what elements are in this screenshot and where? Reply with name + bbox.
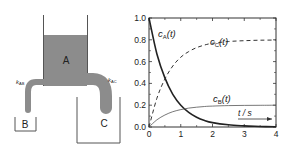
pipe-ac bbox=[87, 79, 106, 108]
x-axis-label: t / s bbox=[238, 108, 252, 118]
y-tick-label: 0.0 bbox=[134, 122, 146, 132]
concentration-chart: 0.00.20.40.60.81.0 01234 cA(t) cC(t) cB(… bbox=[134, 13, 278, 139]
rate-ab-label: kAB bbox=[16, 79, 25, 86]
x-tick-label: 4 bbox=[274, 129, 279, 139]
y-axis-ticks: 0.00.20.40.60.81.0 bbox=[134, 13, 276, 132]
curve-cbt bbox=[149, 105, 276, 127]
y-tick-label: 0.8 bbox=[134, 35, 146, 45]
label-ca: cA(t) bbox=[158, 28, 176, 40]
figure: A B C kAB kAC 0.00.20.40.60.81.0 01234 c… bbox=[0, 0, 292, 152]
tank-a-label: A bbox=[63, 55, 70, 66]
y-tick-label: 0.4 bbox=[134, 78, 146, 88]
pipe-ab bbox=[28, 82, 44, 110]
x-tick-label: 2 bbox=[210, 129, 215, 139]
y-tick-label: 1.0 bbox=[134, 13, 146, 23]
label-cc: cC(t) bbox=[210, 36, 228, 48]
reaction-diagram: A B C kAB kAC bbox=[15, 15, 120, 143]
x-tick-label: 1 bbox=[178, 129, 183, 139]
y-tick-label: 0.2 bbox=[134, 100, 146, 110]
x-tick-label: 0 bbox=[147, 129, 152, 139]
y-tick-label: 0.6 bbox=[134, 57, 146, 67]
beaker-b-label: B bbox=[22, 119, 29, 130]
beaker-c-label: C bbox=[100, 118, 107, 129]
beaker-c bbox=[77, 97, 120, 143]
rate-ac-label: kAC bbox=[108, 77, 117, 84]
arrow-head-icon bbox=[267, 117, 272, 121]
label-cb: cB(t) bbox=[213, 93, 231, 105]
x-tick-label: 3 bbox=[242, 129, 247, 139]
